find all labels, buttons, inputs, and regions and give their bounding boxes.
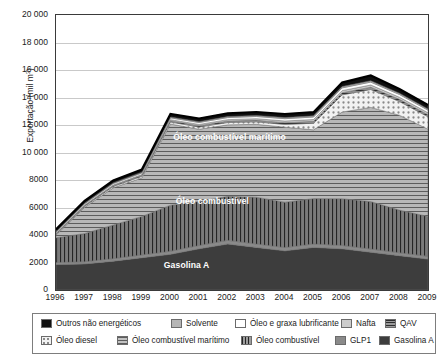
stacked-area-series [56, 15, 428, 290]
legend-item[interactable]: Óleo combustível [241, 336, 319, 345]
x-tick-label: 1997 [74, 292, 93, 302]
x-axis-tick-labels: 1996199719981999200020012002200320042005… [55, 292, 427, 308]
x-tick-label: 2005 [303, 292, 322, 302]
legend-swatch-icon [385, 319, 396, 328]
legend-label: Óleo e graxa lubrificante [250, 319, 339, 328]
legend-swatch-icon [335, 336, 346, 345]
legend-swatch-icon [41, 336, 52, 345]
y-tick-label: 10 000 [22, 147, 48, 157]
x-tick-label: 2007 [360, 292, 379, 302]
legend-label: Nafta [356, 319, 376, 328]
x-tick-label: 2002 [217, 292, 236, 302]
legend-label: Óleo combustível marítimo [132, 336, 229, 345]
legend-row-1: Outros não energéticosSolventeÓleo e gra… [39, 318, 429, 335]
y-tick-label: 18 000 [22, 37, 48, 47]
x-tick-label: 2000 [160, 292, 179, 302]
y-tick-label: 6000 [29, 202, 48, 212]
legend-swatch-icon [41, 319, 52, 328]
legend-item[interactable]: Nafta [341, 319, 376, 328]
legend-item[interactable]: Solvente [171, 319, 218, 328]
x-tick-label: 1996 [46, 292, 65, 302]
legend-label: GLP1 [350, 336, 371, 345]
legend-swatch-icon [235, 319, 246, 328]
legend-swatch-icon [341, 319, 352, 328]
legend-label: QAV [400, 319, 417, 328]
y-axis-tick-labels: 0200040006000800010 00012 00014 00016 00… [0, 0, 52, 300]
chart-legend: Outros não energéticosSolventeÓleo e gra… [32, 313, 436, 354]
legend-item[interactable]: Gasolina A [379, 336, 434, 345]
x-tick-label: 2009 [418, 292, 437, 302]
legend-row-2: Óleo dieselÓleo combustível marítimoÓleo… [39, 335, 429, 352]
legend-label: Gasolina A [394, 336, 434, 345]
legend-item[interactable]: Outros não energéticos [41, 319, 141, 328]
legend-item[interactable]: Óleo diesel [41, 336, 97, 345]
legend-label: Óleo diesel [56, 336, 97, 345]
legend-label: Óleo combustível [256, 336, 319, 345]
x-tick-label: 2008 [389, 292, 408, 302]
series-annotation: Óleo combustível [176, 196, 249, 206]
series-annotation: Óleo combustível marítimo [173, 132, 286, 142]
y-tick-label: 8000 [29, 174, 48, 184]
legend-swatch-icon [241, 336, 252, 345]
y-tick-label: 2000 [29, 257, 48, 267]
x-tick-label: 2001 [189, 292, 208, 302]
legend-swatch-icon [379, 336, 390, 345]
legend-swatch-icon [117, 336, 128, 345]
legend-item[interactable]: GLP1 [335, 336, 371, 345]
x-tick-label: 1998 [103, 292, 122, 302]
legend-item[interactable]: Óleo combustível marítimo [117, 336, 229, 345]
y-tick-label: 16 000 [22, 64, 48, 74]
y-tick-label: 20 000 [22, 9, 48, 19]
legend-label: Outros não energéticos [56, 319, 141, 328]
plot-area [55, 14, 429, 291]
y-tick-label: 12 000 [22, 119, 48, 129]
x-tick-label: 2006 [332, 292, 351, 302]
y-tick-label: 14 000 [22, 92, 48, 102]
x-tick-label: 2004 [274, 292, 293, 302]
series-annotation: Gasolina A [164, 260, 210, 270]
x-tick-label: 2003 [246, 292, 265, 302]
x-tick-label: 1999 [131, 292, 150, 302]
legend-item[interactable]: QAV [385, 319, 417, 328]
chart-figure: Exportação (mil m3) 0200040006000800010 … [0, 0, 444, 363]
legend-label: Solvente [186, 319, 218, 328]
y-tick-label: 4000 [29, 229, 48, 239]
legend-item[interactable]: Óleo e graxa lubrificante [235, 319, 339, 328]
legend-swatch-icon [171, 319, 182, 328]
